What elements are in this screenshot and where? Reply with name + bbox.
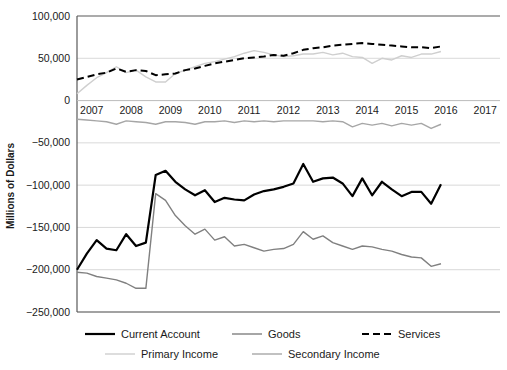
y-tick-label: 50,000: [38, 52, 70, 64]
legend-label-current-account: Current Account: [121, 328, 200, 340]
x-tick-label: 2009: [159, 104, 183, 116]
axis-lines: [77, 16, 500, 312]
series-line-secondary-income: [77, 119, 441, 128]
y-tick-label: −200,000: [26, 263, 70, 275]
series-line-services: [77, 43, 441, 79]
chart-container: 100,00050,0000−50,000−100,000−150,000−20…: [0, 0, 507, 370]
line-chart: 100,00050,0000−50,000−100,000−150,000−20…: [0, 0, 507, 370]
series-line-current-account: [77, 164, 441, 270]
x-tick-label: 2014: [356, 104, 380, 116]
data-series: [77, 43, 441, 288]
y-axis-title-text: Millions of Dollars: [5, 143, 16, 230]
y-tick-label: −100,000: [26, 179, 70, 191]
y-tick-label: −50,000: [32, 136, 70, 148]
x-tick-label: 2012: [277, 104, 301, 116]
x-tick-label: 2011: [238, 104, 261, 116]
y-tick-label: 100,000: [32, 10, 70, 22]
x-tick-label: 2007: [80, 104, 104, 116]
y-tick-label: −150,000: [26, 221, 70, 233]
chart-legend: Current AccountGoodsServicesPrimary Inco…: [85, 328, 441, 360]
x-tick-label: 2017: [474, 104, 498, 116]
legend-label-secondary-income: Secondary Income: [288, 348, 380, 360]
x-tick-label: 2016: [434, 104, 458, 116]
y-axis-title: Millions of Dollars: [5, 143, 16, 230]
y-axis-tick-labels: 100,00050,0000−50,000−100,000−150,000−20…: [26, 10, 70, 318]
x-tick-label: 2008: [119, 104, 143, 116]
x-tick-label: 2010: [198, 104, 222, 116]
y-tick-label: −250,000: [26, 306, 70, 318]
legend-label-primary-income: Primary Income: [141, 348, 218, 360]
x-tick-label: 2013: [316, 104, 340, 116]
legend-label-services: Services: [398, 328, 441, 340]
x-axis-tick-labels: 2007200820092010201120122013201420152016…: [80, 104, 497, 116]
x-tick-label: 2015: [395, 104, 419, 116]
legend-label-goods: Goods: [268, 328, 301, 340]
y-tick-label: 0: [64, 94, 70, 106]
